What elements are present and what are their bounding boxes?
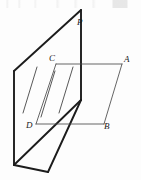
edge-A-to-B (104, 64, 122, 124)
vertex-label-A: A (124, 55, 130, 64)
edge-D-to-C (36, 64, 56, 124)
hatch-line-1 (23, 67, 37, 113)
vertical-plane-group (14, 10, 81, 172)
figure-canvas (0, 0, 141, 180)
vertex-label-C: C (49, 54, 55, 63)
vertex-label-D: D (26, 121, 33, 130)
horizontal-plane-group (36, 64, 122, 124)
geometry-figure: P A C D B (0, 0, 141, 180)
vertical-plane-bottom-edge (14, 165, 48, 172)
vertical-plane-hatching (23, 67, 73, 117)
vertex-label-B: B (104, 122, 110, 131)
vertical-plane-right-edge-lower (48, 100, 81, 172)
vertical-plane-top-edge (14, 10, 81, 71)
hatch-line-2 (41, 71, 55, 117)
hatch-line-3 (59, 67, 73, 113)
vertex-label-P: P (77, 18, 83, 27)
